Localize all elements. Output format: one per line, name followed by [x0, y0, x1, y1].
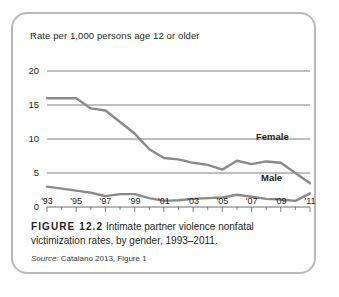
chart-region: Rate per 1,000 persons age 12 or older 0… [13, 14, 318, 214]
x-axis-tick-label: '11 [300, 196, 320, 206]
x-axis-tick-label: '99 [125, 196, 145, 206]
x-axis-tick-label: '07 [242, 196, 262, 206]
x-axis-tick-label: '93 [37, 196, 57, 206]
series-label-male: Male [261, 172, 282, 183]
line-chart-plot [13, 14, 318, 214]
x-axis-tick-label: '01 [154, 196, 174, 206]
y-axis-tick-label: 5 [23, 167, 39, 178]
caption-region: FIGURE 12.2 Intimate partner violence no… [13, 214, 318, 274]
y-axis-tick-label: 15 [23, 99, 39, 110]
x-axis-tick-label: '03 [183, 196, 203, 206]
figure-caption: FIGURE 12.2 Intimate partner violence no… [31, 220, 303, 248]
series-label-female: Female [256, 131, 289, 142]
y-axis-tick-label: 10 [23, 133, 39, 144]
x-axis-tick-label: '97 [95, 196, 115, 206]
x-axis-tick-label: '05 [212, 196, 232, 206]
figure-number-label: FIGURE 12.2 [31, 221, 103, 232]
data-series-group [47, 98, 310, 201]
source-citation-text: Catalano 2013, Figure 1 [61, 254, 147, 263]
x-axis-group [47, 207, 310, 212]
x-axis-tick-label: '09 [271, 196, 291, 206]
x-axis-tick-label: '95 [66, 196, 86, 206]
figure-card: Rate per 1,000 persons age 12 or older 0… [11, 12, 316, 274]
y-axis-tick-label: 20 [23, 65, 39, 76]
figure-source: Source: Catalano 2013, Figure 1 [31, 254, 147, 263]
source-prefix-label: Source: [31, 254, 59, 263]
